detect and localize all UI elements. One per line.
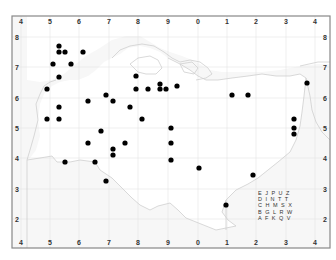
- data-point: [62, 159, 67, 164]
- data-point: [44, 116, 49, 121]
- x-tick-label: 2: [254, 239, 258, 246]
- data-point: [68, 61, 73, 66]
- data-point: [85, 140, 90, 145]
- data-point: [157, 81, 162, 86]
- x-tick-label: 8: [136, 18, 140, 25]
- x-tick-label: 7: [107, 18, 111, 25]
- y-tick-label: 7: [323, 64, 327, 71]
- x-tick-label: 6: [77, 18, 81, 25]
- data-point: [110, 98, 115, 103]
- x-tick-label: 9: [166, 18, 170, 25]
- y-tick-label: 6: [323, 95, 327, 102]
- data-point: [168, 125, 173, 130]
- y-tick-label: 3: [15, 186, 19, 193]
- data-point: [133, 73, 138, 78]
- data-point: [44, 86, 49, 91]
- x-tick-label: 3: [284, 18, 288, 25]
- data-point: [110, 146, 115, 151]
- data-point: [174, 83, 179, 88]
- x-tick-label: 4: [19, 239, 23, 246]
- data-point: [168, 140, 173, 145]
- x-tick-label: 1: [225, 18, 229, 25]
- y-tick-label: 8: [15, 34, 19, 41]
- data-point: [291, 131, 296, 136]
- x-tick-label: 2: [254, 18, 258, 25]
- y-tick-label: 4: [323, 155, 327, 162]
- data-point: [62, 49, 67, 54]
- y-tick-label: 2: [15, 216, 19, 223]
- x-tick-label: 3: [284, 239, 288, 246]
- x-tick-label: 5: [48, 239, 52, 246]
- data-point: [103, 178, 108, 183]
- x-tick-label: 1: [225, 239, 229, 246]
- legend-row: E J P U Z: [258, 190, 290, 196]
- x-tick-label: 4: [313, 239, 317, 246]
- data-point: [56, 43, 61, 48]
- x-tick-label: 9: [166, 239, 170, 246]
- data-point: [304, 80, 309, 85]
- data-point: [145, 86, 150, 91]
- data-point: [139, 116, 144, 121]
- data-point: [103, 92, 108, 97]
- data-point: [50, 61, 55, 66]
- data-point: [92, 159, 97, 164]
- data-point: [163, 86, 168, 91]
- data-point: [98, 128, 103, 133]
- x-tick-label: 5: [48, 18, 52, 25]
- data-point: [56, 104, 61, 109]
- data-point: [250, 172, 255, 177]
- letter-grid-legend: E J P U ZD I N T TC H M S XB G L R WA F …: [258, 190, 293, 221]
- y-tick-label: 7: [15, 64, 19, 71]
- data-point: [56, 74, 61, 79]
- data-point: [56, 116, 61, 121]
- data-point: [291, 125, 296, 130]
- y-tick-label: 2: [323, 216, 327, 223]
- data-point: [127, 104, 132, 109]
- map-canvas: E J P U ZD I N T TC H M S XB G L R WA F …: [0, 0, 336, 260]
- x-tick-label: 4: [313, 18, 317, 25]
- data-point: [229, 92, 234, 97]
- data-point: [122, 140, 127, 145]
- data-point: [85, 98, 90, 103]
- data-point: [56, 49, 61, 54]
- data-point: [80, 49, 85, 54]
- legend-row: B G L R W: [258, 209, 293, 215]
- legend-row: A F K Q V: [258, 215, 291, 221]
- legend-row: D I N T T: [258, 196, 289, 202]
- data-point: [245, 92, 250, 97]
- data-point: [196, 165, 201, 170]
- y-tick-label: 5: [323, 125, 327, 132]
- data-point: [133, 86, 138, 91]
- y-tick-label: 3: [323, 186, 327, 193]
- x-tick-label: 0: [196, 239, 200, 246]
- y-tick-label: 8: [323, 34, 327, 41]
- data-point: [157, 86, 162, 91]
- data-point: [110, 152, 115, 157]
- y-tick-label: 5: [15, 125, 19, 132]
- x-tick-label: 4: [19, 18, 23, 25]
- data-point: [223, 202, 228, 207]
- data-point: [291, 116, 296, 121]
- y-tick-label: 6: [15, 95, 19, 102]
- x-tick-label: 6: [77, 239, 81, 246]
- x-tick-label: 7: [107, 239, 111, 246]
- legend-row: C H M S X: [258, 202, 293, 208]
- y-tick-label: 4: [15, 155, 19, 162]
- x-tick-label: 0: [196, 18, 200, 25]
- x-tick-label: 8: [136, 239, 140, 246]
- data-point: [168, 157, 173, 162]
